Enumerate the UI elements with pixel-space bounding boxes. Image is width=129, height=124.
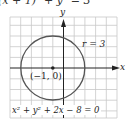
x-axis-arrow-icon <box>112 66 120 71</box>
center-label: (−1, 0) <box>30 71 62 81</box>
y-axis-arrow-icon <box>61 19 66 27</box>
y-axis-label: y <box>60 7 65 17</box>
axes <box>10 22 116 118</box>
radius-label: r = 3 <box>82 39 105 49</box>
x-axis-label: x <box>120 62 125 72</box>
center-point <box>51 66 55 70</box>
equation-label: x² + y² + 2x − 8 = 0 <box>11 105 101 115</box>
